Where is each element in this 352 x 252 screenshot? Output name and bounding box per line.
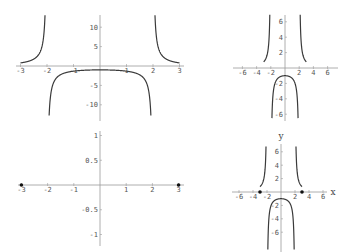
x-tick-label: -2 xyxy=(43,67,51,75)
y-tick-label: -10 xyxy=(85,101,98,109)
x-tick-label: 2 xyxy=(297,69,301,77)
y-tick-label: 2 xyxy=(279,49,283,57)
y-tick-label: -4 xyxy=(271,215,279,223)
x-axis-label: x xyxy=(330,187,335,197)
x-tick-label: -4 xyxy=(249,193,257,201)
x-tick-label: 1 xyxy=(124,186,128,194)
y-tick-label: 6 xyxy=(275,148,279,156)
y-tick-label: 2 xyxy=(275,175,279,183)
y-tick-label: -1 xyxy=(90,231,98,239)
x-tick-label: 2 xyxy=(150,186,154,194)
x-tick-label: -3 xyxy=(16,67,24,75)
curve-branch xyxy=(260,147,266,187)
y-tick-label: -5 xyxy=(90,82,98,90)
y-tick-label: -4 xyxy=(275,95,283,103)
plot-bottom-left: -3-2-1123-1-0.50.51 xyxy=(17,131,184,246)
x-tick-label: 3 xyxy=(176,186,180,194)
x-tick-label: 2 xyxy=(151,67,155,75)
y-tick-label: 5 xyxy=(94,43,98,51)
y-tick-label: 1 xyxy=(94,132,98,140)
y-tick-label: 4 xyxy=(275,162,279,170)
y-tick-label: 4 xyxy=(279,34,283,42)
endpoint-dot xyxy=(300,190,304,194)
x-tick-label: -1 xyxy=(70,186,78,194)
x-tick-label: 6 xyxy=(325,69,329,77)
y-axis-label: y xyxy=(277,131,284,141)
curve-branch xyxy=(300,15,306,62)
x-tick-label: 4 xyxy=(307,193,311,201)
endpoint-dot xyxy=(20,183,24,187)
x-tick-label: -4 xyxy=(252,69,260,77)
figure: -3-2-1123-10-5510 -3-2-1123-1-0.50.51 -6… xyxy=(0,0,352,252)
y-tick-label: -6 xyxy=(275,111,283,119)
x-tick-label: -6 xyxy=(235,193,243,201)
curve-branch xyxy=(264,15,270,62)
x-tick-label: -6 xyxy=(238,69,246,77)
x-tick-label: 4 xyxy=(311,69,315,77)
y-tick-label: 6 xyxy=(279,18,283,26)
plot-bottom-right: -6-4-2246-6-4-2246xy xyxy=(232,131,336,252)
x-tick-label: -2 xyxy=(263,193,271,201)
x-tick-label: 3 xyxy=(177,67,181,75)
y-tick-label: 10 xyxy=(90,24,98,32)
y-tick-label: -0.5 xyxy=(81,206,98,214)
endpoint-dot xyxy=(258,190,262,194)
x-tick-label: -2 xyxy=(267,69,275,77)
plot-top-left: -3-2-1123-10-5510 xyxy=(16,15,184,121)
curve-branch xyxy=(155,15,180,63)
endpoint-dot xyxy=(177,183,181,187)
x-tick-label: 2 xyxy=(293,193,297,201)
curve-branch xyxy=(21,15,46,63)
plot-top-right: -6-4-2246-6-4-2246 xyxy=(233,15,338,121)
y-tick-label: -6 xyxy=(271,229,279,237)
y-tick-label: 0.5 xyxy=(85,157,98,165)
x-tick-label: 6 xyxy=(321,193,325,201)
x-tick-label: -2 xyxy=(43,186,51,194)
x-tick-label: -3 xyxy=(17,186,25,194)
curve-branch xyxy=(296,147,302,187)
